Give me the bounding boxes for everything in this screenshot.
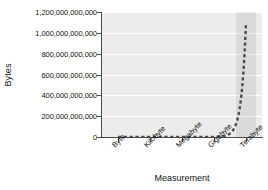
y-axis-tick-mark [97,75,101,76]
y-axis-tick-mark [97,137,101,138]
plot-area [102,12,262,137]
y-axis-tick-label: 400,000,000,000 [41,91,97,100]
y-axis-tick-labels: 0200,000,000,000400,000,000,000600,000,0… [14,0,100,150]
chart-container: Bytes 0200,000,000,000400,000,000,000600… [0,0,268,190]
y-axis-tick-mark [97,33,101,34]
y-axis-tick-mark [97,12,101,13]
y-axis-title: Bytes [0,0,14,150]
y-axis-line [101,12,102,138]
data-series-line [102,12,262,137]
y-axis-tick-label: 1,200,000,000,000 [35,8,97,17]
y-axis-tick-mark [97,95,101,96]
y-axis-title-text: Bytes [2,63,12,86]
x-axis-title: Measurement [102,173,262,183]
y-axis-tick-label: 1,000,000,000,000 [35,28,97,37]
y-axis-tick-label: 800,000,000,000 [41,49,97,58]
y-axis-tick-mark [97,54,101,55]
y-axis-tick-label: 600,000,000,000 [41,70,97,79]
y-axis-tick-mark [97,116,101,117]
y-axis-tick-label: 200,000,000,000 [41,112,97,121]
